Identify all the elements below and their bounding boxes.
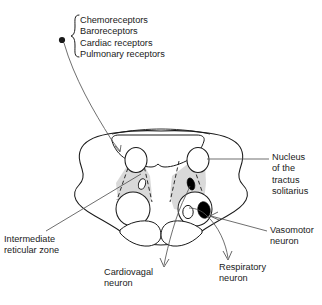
afferent-origin-dot (59, 37, 65, 43)
receptor-item-baroreceptors: Baroreceptors (80, 26, 165, 37)
receptor-item-chemoreceptors: Chemoreceptors (80, 15, 165, 26)
label-nucleus-tractus-solitarius: Nucleus of the tractus solitarius (272, 152, 308, 197)
diagram-canvas: Chemoreceptors Baroreceptors Cardiac rec… (0, 0, 322, 305)
brainstem-outline (75, 131, 248, 245)
receptor-list-brace (71, 15, 79, 57)
nts-label-line-3: tractus (272, 175, 308, 186)
nts-label-line-1: Nucleus (272, 152, 308, 163)
irz-label-line-1: Intermediate (4, 234, 59, 245)
label-intermediate-reticular-zone: Intermediate reticular zone (4, 234, 59, 257)
nts-label-line-4: solitarius (272, 186, 308, 197)
nts-label-line-2: of the (272, 163, 308, 174)
vasomotor-leader-line (211, 216, 267, 231)
respiratory-label-line-2: neuron (219, 273, 266, 284)
irz-label-line-2: reticular zone (4, 245, 59, 256)
cardiovagal-label-line-2: neuron (104, 278, 153, 289)
vasomotor-label-line-2: neuron (270, 236, 314, 247)
label-cardiovagal-neuron: Cardiovagal neuron (104, 267, 153, 290)
receptor-item-pulmonary-receptors: Pulmonary receptors (80, 49, 165, 60)
cardiovagal-nucleus-right (183, 205, 193, 218)
label-vasomotor-neuron: Vasomotor neuron (270, 225, 314, 248)
receptor-item-cardiac-receptors: Cardiac receptors (80, 38, 165, 49)
afferent-receptor-list: Chemoreceptors Baroreceptors Cardiac rec… (80, 15, 165, 60)
respiratory-label-line-1: Respiratory (219, 262, 266, 273)
cardiovagal-label-line-1: Cardiovagal (104, 267, 153, 278)
nts-oval-left (125, 148, 147, 173)
label-respiratory-neuron: Respiratory neuron (219, 262, 266, 285)
nts-oval-right (187, 148, 209, 173)
vasomotor-label-line-1: Vasomotor (270, 225, 314, 236)
